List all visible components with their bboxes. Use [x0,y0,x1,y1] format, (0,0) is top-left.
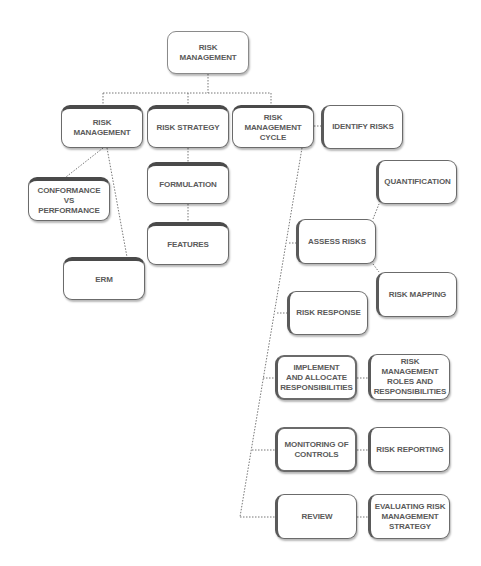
node-label: RISK MANAGEMENT CYCLE [244,113,301,143]
connector-to-conformance [66,148,103,177]
node-assess-risks: ASSESS RISKS [296,219,376,264]
node-label: FORMULATION [159,180,216,190]
connector-to-quantification [373,204,379,219]
node-review: REVIEW [275,494,357,539]
node-risk-management-cycle: RISK MANAGEMENT CYCLE [232,105,314,148]
node-quantification: QUANTIFICATION [376,160,457,204]
node-label: RISK REPORTING [376,445,444,455]
node-label: QUANTIFICATION [384,177,450,187]
node-label: MONITORING OF CONTROLS [285,440,349,460]
node-implement-allocate-responsibilities: IMPLEMENT AND ALLOCATE RESPONSIBILITIES [275,355,357,400]
node-label: RISK MANAGEMENT [179,43,236,63]
node-label: RISK STRATEGY [156,123,219,133]
node-risk-management: RISK MANAGEMENT [61,105,143,148]
node-risk-mapping: RISK MAPPING [376,272,457,317]
node-label: IMPLEMENT AND ALLOCATE RESPONSIBILITIES [280,363,353,393]
connector-to-risk-mapping [373,264,379,272]
node-erm: ERM [63,257,145,300]
node-roles-and-responsibilities: RISK MANAGEMENT ROLES AND RESPONSIBILITI… [368,354,450,400]
node-evaluating-risk-management-strategy: EVALUATING RISK MANAGEMENT STRATEGY [368,494,450,539]
node-conformance-vs-performance: CONFORMANCE VS PERFORMANCE [28,177,110,221]
node-label: RISK MANAGEMENT [73,118,130,138]
node-label: ASSESS RISKS [308,237,366,247]
node-identify-risks: IDENTIFY RISKS [321,105,403,149]
node-root-risk-management: RISK MANAGEMENT [167,31,249,74]
node-label: RISK MAPPING [389,290,446,300]
node-label: EVALUATING RISK MANAGEMENT STRATEGY [375,502,446,532]
node-label: CONFORMANCE VS PERFORMANCE [32,186,106,216]
node-risk-reporting: RISK REPORTING [368,427,450,472]
node-label: RISK RESPONSE [296,308,361,318]
node-label: ERM [95,275,112,285]
connector-to-erm [107,148,127,257]
node-formulation: FORMULATION [147,162,229,204]
node-label: RISK MANAGEMENT ROLES AND RESPONSIBILITI… [374,357,447,397]
risk-management-diagram: RISK MANAGEMENT RISK MANAGEMENT RISK STR… [0,0,481,566]
node-monitoring-of-controls: MONITORING OF CONTROLS [275,427,357,472]
node-features: FEATURES [147,222,229,265]
node-label: REVIEW [302,512,333,522]
node-risk-strategy: RISK STRATEGY [147,105,229,148]
node-label: FEATURES [167,240,209,250]
node-risk-response: RISK RESPONSE [287,291,368,335]
node-label: IDENTIFY RISKS [332,122,394,132]
